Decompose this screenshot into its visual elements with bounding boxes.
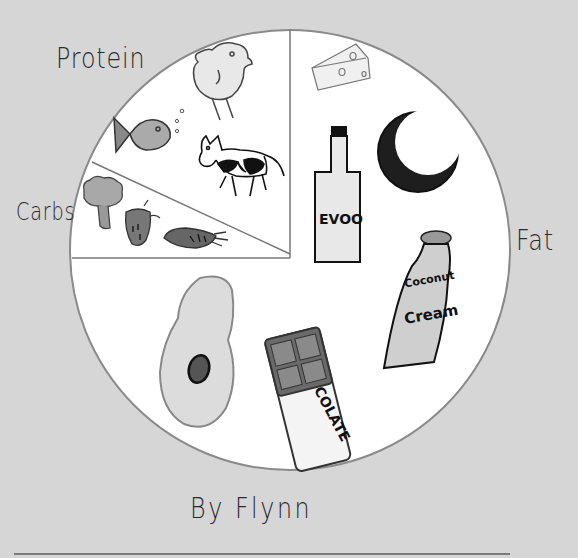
plate-svg: EVOO Coconut Cream C (0, 0, 578, 558)
section-label-protein: Protein (56, 42, 145, 75)
plate-diagram: EVOO Coconut Cream C (0, 0, 578, 558)
section-label-carbs: Carbs (16, 198, 75, 226)
section-label-fat: Fat (516, 224, 554, 257)
bottom-rule-line (14, 553, 510, 555)
author-signature: By Flynn (190, 492, 312, 525)
evoo-label: EVOO (319, 211, 363, 227)
